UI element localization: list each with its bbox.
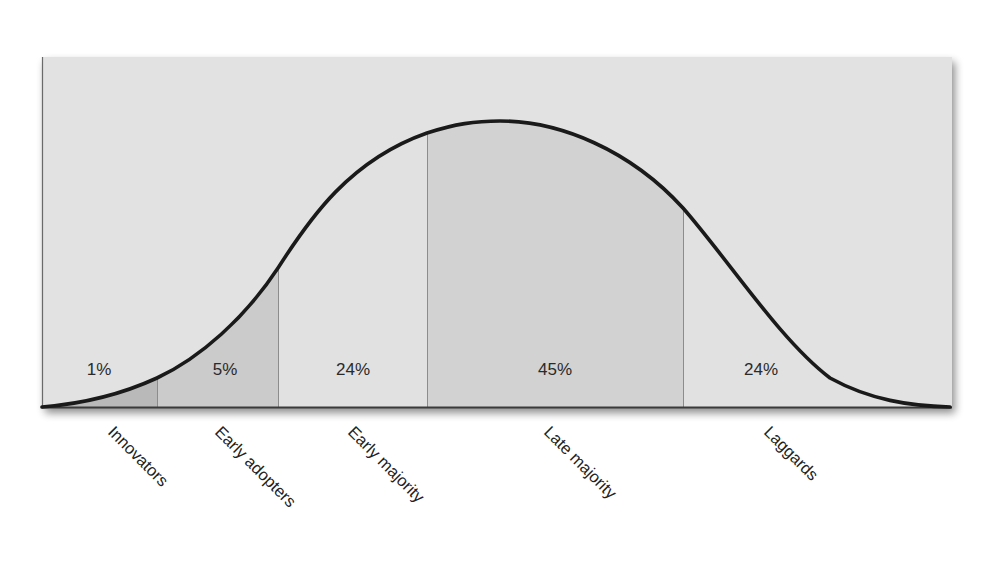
pct-label-innovators: 1%	[87, 360, 112, 379]
pct-label-late-majority: 45%	[538, 360, 572, 379]
category-label-late-majority: Late majority	[541, 422, 621, 502]
category-label-early-majority: Early majority	[345, 422, 429, 506]
pct-label-early-majority: 24%	[336, 360, 370, 379]
category-label-innovators: Innovators	[105, 422, 172, 489]
diffusion-of-innovation-chart: 1% 5% 24% 45% 24% Innovators Early adopt…	[0, 0, 987, 561]
category-label-early-adopters: Early adopters	[212, 422, 300, 510]
chart-svg: 1% 5% 24% 45% 24% Innovators Early adopt…	[0, 0, 987, 561]
pct-label-early-adopters: 5%	[213, 360, 238, 379]
category-label-laggards: Laggards	[761, 422, 822, 483]
pct-label-laggards: 24%	[744, 360, 778, 379]
